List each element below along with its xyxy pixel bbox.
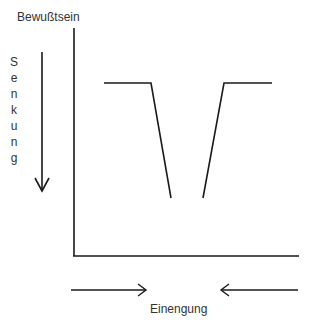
left-arrow-icon: [221, 284, 298, 296]
letter: g: [4, 150, 24, 166]
letter: u: [4, 118, 24, 134]
curve-left: [104, 83, 171, 198]
letter: S: [4, 54, 24, 70]
down-arrow-icon: [35, 52, 49, 191]
y-axis-label: Bewußtsein: [17, 10, 80, 24]
curve-right: [203, 83, 272, 198]
diagram-canvas: [0, 0, 315, 333]
letter: k: [4, 102, 24, 118]
letter: n: [4, 134, 24, 150]
right-arrow-icon: [71, 284, 146, 296]
letter: e: [4, 70, 24, 86]
vertical-label-senkung: S e n k u n g: [4, 54, 24, 166]
x-axis-label: Einengung: [150, 302, 207, 316]
letter: n: [4, 86, 24, 102]
